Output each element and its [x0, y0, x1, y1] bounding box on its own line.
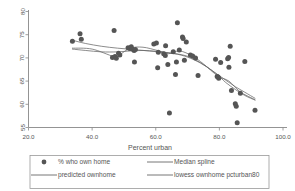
- data-point: [213, 57, 218, 62]
- data-point: [112, 28, 117, 33]
- legend: % who own homeMedian splinepredicted own…: [31, 158, 260, 179]
- data-point: [70, 39, 75, 44]
- data-point: [165, 62, 170, 67]
- data-point: [132, 60, 137, 65]
- x-axis-label: Percent urban: [128, 144, 172, 151]
- data-point: [253, 108, 258, 113]
- x-tick-label: 20.0: [22, 133, 35, 140]
- data-point: [177, 48, 182, 53]
- legend-label: % who own home: [58, 158, 110, 165]
- data-point: [163, 53, 168, 58]
- data-point: [218, 60, 223, 65]
- chart-container: 556065707580 20.040.060.080.0100.0 Perce…: [0, 0, 295, 191]
- legend-label: lowess ownhome pcturban80: [174, 171, 260, 179]
- data-point: [226, 55, 231, 60]
- y-tick-label: 75: [19, 31, 26, 38]
- data-point: [238, 91, 243, 96]
- y-tick-label: 80: [19, 8, 26, 15]
- data-point: [79, 37, 84, 42]
- data-point: [235, 120, 240, 125]
- data-point: [171, 49, 176, 54]
- y-tick-label: 65: [19, 77, 26, 84]
- legend-label: predicted ownhome: [58, 171, 116, 179]
- data-point: [193, 55, 198, 60]
- data-point: [226, 65, 231, 70]
- data-points: [70, 20, 258, 125]
- x-tick-label: 80.0: [213, 133, 226, 140]
- scatter-plot: 556065707580 20.040.060.080.0100.0 Perce…: [0, 0, 295, 191]
- data-point: [234, 104, 239, 109]
- fit-lines: [72, 40, 255, 100]
- data-point: [163, 43, 168, 48]
- data-point: [156, 50, 161, 55]
- data-point: [173, 72, 178, 77]
- y-tick-label: 70: [19, 54, 26, 61]
- data-point: [229, 88, 234, 93]
- data-point: [155, 65, 160, 70]
- x-axis-ticks: 20.040.060.080.0100.0: [22, 128, 291, 141]
- data-point: [154, 41, 159, 46]
- data-point: [167, 111, 172, 116]
- data-point: [174, 60, 179, 65]
- data-point: [184, 40, 189, 45]
- data-point: [228, 44, 233, 49]
- y-tick-label: 55: [19, 124, 26, 131]
- legend-marker-dot: [42, 160, 47, 165]
- data-point: [78, 31, 83, 36]
- data-point: [117, 53, 122, 58]
- y-tick-label: 60: [19, 100, 26, 107]
- legend-label: Median spline: [174, 158, 215, 166]
- data-point: [175, 20, 180, 25]
- data-point: [216, 76, 221, 81]
- x-tick-label: 40.0: [86, 133, 99, 140]
- data-point: [242, 59, 247, 64]
- x-tick-label: 100.0: [275, 133, 291, 140]
- data-point: [133, 47, 138, 52]
- fit-line: [72, 40, 255, 100]
- data-point: [182, 58, 187, 63]
- data-point: [196, 73, 201, 78]
- x-tick-label: 60.0: [150, 133, 163, 140]
- y-axis-ticks: 556065707580: [19, 8, 29, 131]
